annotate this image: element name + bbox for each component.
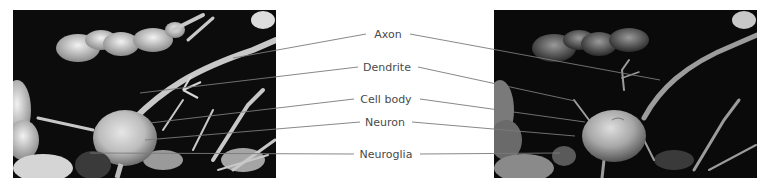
label-cell-body: Cell body — [357, 93, 414, 106]
left-micrograph-image — [13, 10, 276, 178]
left-micrograph — [13, 10, 276, 178]
right-micrograph-image — [494, 10, 757, 178]
label-neuroglia: Neuroglia — [357, 148, 416, 161]
label-axon: Axon — [371, 28, 404, 41]
right-micrograph — [494, 10, 757, 178]
label-neuron: Neuron — [362, 116, 408, 129]
label-dendrite: Dendrite — [360, 61, 414, 74]
